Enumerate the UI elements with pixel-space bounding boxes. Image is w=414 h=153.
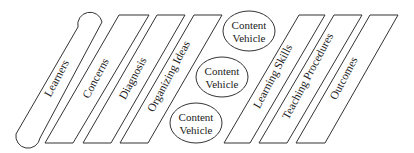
content-vehicle-line2: Vehicle	[180, 124, 213, 136]
content-vehicle-line2: Vehicle	[233, 32, 266, 44]
content-vehicle-line1: Content	[205, 65, 240, 77]
content-vehicle-2: Content Vehicle	[196, 57, 248, 97]
curriculum-diagram: Learners Concerns Diagnosis Organizing I…	[0, 0, 414, 153]
content-vehicle-line1: Content	[179, 111, 214, 123]
content-vehicle-3: Content Vehicle	[170, 103, 222, 143]
content-vehicle-line2: Vehicle	[206, 78, 239, 90]
content-vehicle-1: Content Vehicle	[223, 11, 275, 51]
content-vehicle-line1: Content	[232, 19, 267, 31]
content-vehicle-ellipse	[170, 103, 222, 143]
content-vehicle-ellipse	[196, 57, 248, 97]
content-vehicle-ellipse	[223, 11, 275, 51]
